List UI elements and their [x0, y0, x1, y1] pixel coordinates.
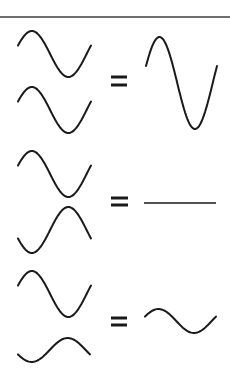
equals-sign [111, 198, 128, 205]
input-wave-a [18, 151, 91, 197]
input-wave-a [18, 31, 91, 77]
input-wave-b-small-inverted [18, 338, 90, 362]
input-wave-b [18, 87, 91, 133]
interference-diagram [0, 0, 230, 382]
result-wave-amplified [146, 37, 217, 129]
result-wave-reduced [145, 309, 216, 333]
equals-sign [111, 318, 127, 325]
input-wave-a [18, 271, 91, 317]
input-wave-b-inverted [18, 207, 91, 253]
equation-partial [18, 271, 216, 362]
equation-destructive [18, 151, 216, 253]
equals-sign [111, 77, 127, 85]
equation-constructive [18, 31, 217, 133]
